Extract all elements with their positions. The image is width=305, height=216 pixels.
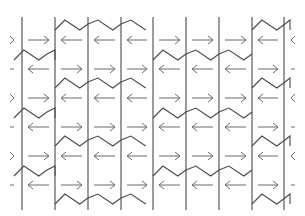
chevron-right-icon <box>10 94 14 102</box>
zigzag-a-line <box>55 20 146 30</box>
diagram-canvas <box>0 0 305 216</box>
chevron-left-icon <box>291 152 295 160</box>
zigzag-b-line <box>14 50 55 60</box>
zigzag-a-line <box>55 194 146 204</box>
zigzag-a-line <box>55 136 146 146</box>
chevron-right-icon <box>10 36 14 44</box>
zigzag-b-line <box>153 50 252 60</box>
zigzag-b-line <box>153 108 252 118</box>
zigzag-b-line <box>14 166 55 176</box>
chevron-right-icon <box>10 152 14 160</box>
chevron-left-icon <box>291 36 295 44</box>
zigzag-b-line <box>14 108 55 118</box>
chevron-left-icon <box>291 94 295 102</box>
arrow-zigzag-diagram <box>0 0 305 216</box>
zigzag-b-line <box>153 166 252 176</box>
zigzag-a-line <box>55 78 146 88</box>
